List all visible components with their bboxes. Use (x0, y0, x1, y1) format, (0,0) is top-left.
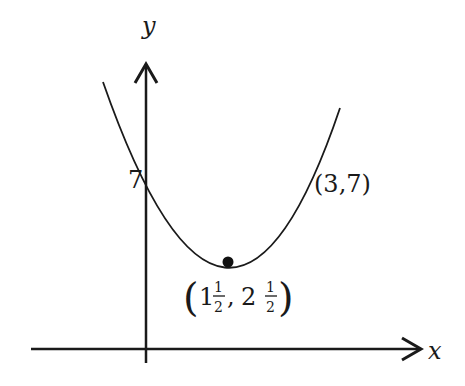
vertex-x-denominator: 2 (214, 299, 223, 315)
x-axis-label: x (428, 337, 442, 365)
y-axis-label: y (141, 12, 156, 40)
parabola-diagram: y x 7 (3,7) ( 1 1 2 , 2 1 2 ) (0, 0, 465, 386)
vertex-x-numerator: 1 (214, 279, 223, 295)
y-axis (135, 64, 157, 363)
point-3-7-label: (3,7) (314, 170, 371, 198)
vertex-label: ( 1 1 2 , 2 1 2 ) (183, 274, 294, 320)
y-intercept-label: 7 (128, 166, 143, 194)
vertex-open-paren: ( (183, 274, 199, 320)
vertex-close-paren: ) (278, 274, 294, 320)
vertex-y-numerator: 1 (266, 279, 275, 295)
vertex-y-denominator: 2 (266, 299, 275, 315)
vertex-point (223, 257, 234, 268)
vertex-y-whole: 2 (241, 283, 256, 311)
x-axis (31, 338, 421, 360)
vertex-comma: , (227, 283, 235, 311)
vertex-x-whole: 1 (199, 283, 214, 311)
